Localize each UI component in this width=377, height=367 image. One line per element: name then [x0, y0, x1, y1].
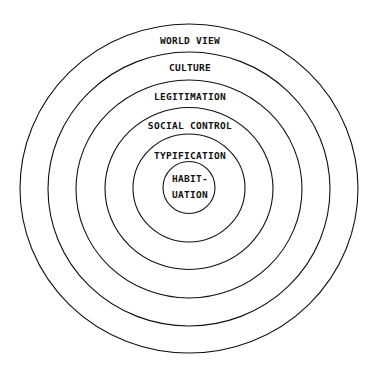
label-world-view: WORLD VIEW — [160, 35, 220, 46]
label-habituation-line2: UATION — [172, 189, 208, 200]
label-habituation-line1: HABIT- — [172, 173, 208, 184]
label-social-control: SOCIAL CONTROL — [148, 120, 232, 131]
layer-labels: WORLD VIEW CULTURE LEGITIMATION SOCIAL C… — [148, 35, 232, 200]
label-typification: TYPIFICATION — [154, 150, 226, 161]
label-legitimation: LEGITIMATION — [154, 91, 226, 102]
ring-habituation — [163, 162, 215, 214]
label-culture: CULTURE — [169, 62, 211, 73]
concentric-layers-diagram: WORLD VIEW CULTURE LEGITIMATION SOCIAL C… — [0, 0, 377, 367]
